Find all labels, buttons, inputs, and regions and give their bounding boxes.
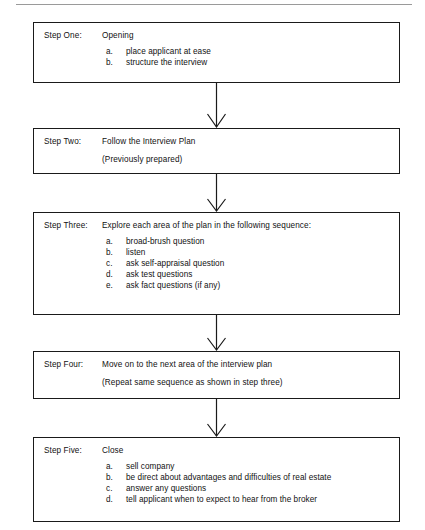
item-text: sell company [126,461,393,472]
list-item: e. ask fact questions (if any) [102,280,393,291]
list-item: a. place applicant at ease [102,46,393,57]
item-text: ask fact questions (if any) [126,280,393,291]
step-box-four: Step Four: Move on to the next area of t… [33,351,400,399]
step-box-two: Step Two: Follow the Interview Plan (Pre… [33,128,400,174]
list-item: a. sell company [102,461,393,472]
list-item: b. be direct about advantages and diffic… [102,472,393,483]
list-item: a. broad-brush question [102,236,393,247]
step-one-label: Step One: [44,30,102,42]
step-four-label: Step Four: [44,359,102,371]
list-item: b. structure the interview [102,57,393,68]
item-text: ask test questions [126,269,393,280]
arrow-two-to-three [206,174,227,212]
list-item: c. ask self-appraisal question [102,258,393,269]
step-four-heading: Move on to the next area of the intervie… [102,359,393,371]
item-text: place applicant at ease [126,46,393,57]
item-marker: a. [106,46,126,57]
item-text: tell applicant when to expect to hear fr… [126,494,393,505]
item-text: listen [126,247,393,258]
item-marker: d. [106,269,126,280]
flowchart-page: Step One: Opening a. place applicant at … [0,0,425,530]
step-three-item-list: a. broad-brush question b. listen c. ask… [102,236,393,291]
step-four-subheading: (Repeat same sequence as shown in step t… [102,377,393,389]
step-three-heading: Explore each area of the plan in the fol… [102,220,393,232]
step-one-heading: Opening [102,30,393,42]
step-five-heading: Close [102,445,393,457]
item-marker: e. [106,280,126,291]
list-item: c. answer any questions [102,483,393,494]
item-text: ask self-appraisal question [126,258,393,269]
item-marker: a. [106,461,126,472]
item-text: answer any questions [126,483,393,494]
step-box-three: Step Three: Explore each area of the pla… [33,212,400,315]
item-marker: d. [106,494,126,505]
arrow-three-to-four [206,315,227,351]
step-box-five: Step Five: Close a. sell company b. be d… [33,437,400,522]
item-marker: c. [106,258,126,269]
item-text: be direct about advantages and difficult… [126,472,393,483]
step-two-subheading: (Previously prepared) [102,154,393,166]
list-item: d. tell applicant when to expect to hear… [102,494,393,505]
step-one-item-list: a. place applicant at ease b. structure … [102,46,393,68]
item-marker: b. [106,247,126,258]
item-marker: a. [106,236,126,247]
step-box-one: Step One: Opening a. place applicant at … [33,22,400,83]
list-item: b. listen [102,247,393,258]
item-marker: c. [106,483,126,494]
arrow-one-to-two [206,83,227,128]
list-item: d. ask test questions [102,269,393,280]
step-five-item-list: a. sell company b. be direct about advan… [102,461,393,505]
step-two-label: Step Two: [44,136,102,148]
step-five-label: Step Five: [44,445,102,457]
step-three-label: Step Three: [44,220,102,232]
step-two-heading: Follow the Interview Plan [102,136,393,148]
item-text: broad-brush question [126,236,393,247]
item-marker: b. [106,57,126,68]
arrow-four-to-five [206,399,227,437]
item-text: structure the interview [126,57,393,68]
item-marker: b. [106,472,126,483]
page-top-rule [16,4,412,5]
